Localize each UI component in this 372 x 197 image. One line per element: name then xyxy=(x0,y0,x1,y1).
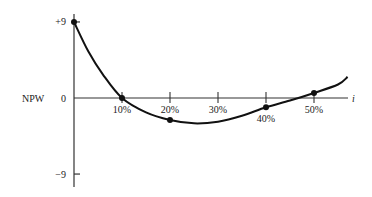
y-tick-label: +9 xyxy=(55,16,66,27)
x-axis-title: i xyxy=(352,93,355,104)
data-point xyxy=(263,104,269,110)
y-tick-label: 0 xyxy=(61,93,66,104)
data-point xyxy=(71,19,77,25)
axes xyxy=(74,14,348,187)
x-tick-label: 20% xyxy=(161,104,179,115)
x-tick-label: 30% xyxy=(209,104,227,115)
x-tick-label: 10% xyxy=(113,104,131,115)
y-axis-title: NPW xyxy=(22,93,45,104)
data-point xyxy=(167,117,173,123)
x-tick-label: 40% xyxy=(257,113,275,124)
npw-chart: NPW i +90−910%20%30%40%50% xyxy=(0,0,372,197)
data-point xyxy=(311,90,317,96)
data-points xyxy=(71,19,317,123)
x-tick-label: 50% xyxy=(305,104,323,115)
data-point xyxy=(119,95,125,101)
y-tick-label: −9 xyxy=(55,169,66,180)
